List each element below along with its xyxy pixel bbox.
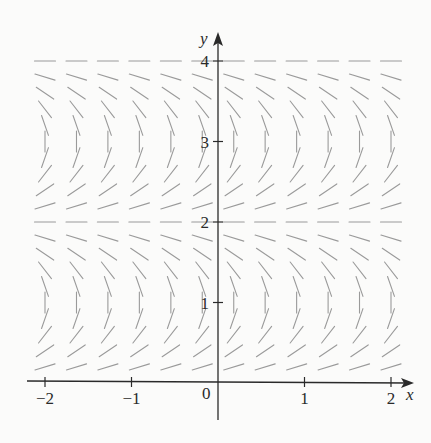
slope-mark: [353, 165, 366, 182]
slope-mark: [36, 248, 53, 260]
slope-mark: [101, 101, 114, 118]
slope-mark: [164, 262, 177, 279]
slope-mark: [382, 184, 399, 196]
slope-mark: [162, 184, 179, 196]
slope-mark: [192, 203, 212, 209]
slope-mark: [255, 74, 275, 80]
slope-mark: [349, 74, 369, 80]
slope-mark: [164, 101, 177, 118]
slope-mark: [290, 262, 303, 279]
slope-mark: [288, 248, 305, 260]
slope-mark: [288, 184, 305, 196]
slope-mark: [322, 326, 335, 343]
slope-mark: [225, 345, 242, 357]
slope-mark: [196, 101, 209, 118]
slope-mark: [68, 87, 85, 99]
slope-mark: [131, 248, 148, 260]
slope-mark: [70, 262, 83, 279]
slope-mark: [161, 235, 181, 241]
slope-mark: [68, 248, 85, 260]
slope-mark: [39, 101, 52, 118]
slope-mark: [98, 364, 118, 370]
slope-mark: [36, 184, 53, 196]
slope-mark: [382, 248, 399, 260]
slope-mark: [101, 262, 114, 279]
slope-mark: [99, 345, 116, 357]
x-axis-label: x: [405, 385, 414, 404]
slope-mark: [35, 74, 55, 80]
slope-mark: [39, 262, 52, 279]
slope-mark: [164, 326, 177, 343]
slope-mark: [353, 262, 366, 279]
slope-mark: [36, 345, 53, 357]
slope-mark: [382, 345, 399, 357]
slope-mark: [66, 74, 86, 80]
slope-mark: [131, 87, 148, 99]
slope-mark: [259, 165, 272, 182]
slope-mark: [255, 364, 275, 370]
slope-mark: [290, 165, 303, 182]
slope-mark: [162, 248, 179, 260]
slope-mark: [133, 326, 146, 343]
slope-mark: [381, 74, 401, 80]
slope-mark: [224, 203, 244, 209]
slope-field-chart: x y −2−112 1234 0: [0, 0, 431, 443]
y-tick-label: 3: [201, 133, 210, 152]
slope-mark: [381, 203, 401, 209]
slope-mark: [256, 184, 273, 196]
slope-mark: [161, 364, 181, 370]
slope-mark: [192, 364, 212, 370]
slope-mark: [196, 165, 209, 182]
slope-mark: [351, 248, 368, 260]
slope-mark: [192, 235, 212, 241]
y-tick-label: 1: [201, 294, 210, 313]
slope-mark: [225, 87, 242, 99]
origin-label: 0: [202, 384, 211, 403]
slope-mark: [129, 235, 149, 241]
slope-mark: [131, 184, 148, 196]
slope-mark: [129, 74, 149, 80]
slope-mark: [98, 74, 118, 80]
slope-mark: [290, 101, 303, 118]
slope-mark: [225, 248, 242, 260]
slope-mark: [318, 74, 338, 80]
slope-mark: [319, 345, 336, 357]
slope-mark: [385, 262, 398, 279]
slope-mark: [349, 364, 369, 370]
slope-mark: [322, 262, 335, 279]
slope-mark: [256, 87, 273, 99]
x-tick-label: −1: [122, 389, 140, 408]
x-tick-label: 2: [387, 389, 396, 408]
slope-mark: [129, 203, 149, 209]
slope-mark: [101, 326, 114, 343]
slope-mark: [98, 203, 118, 209]
slope-mark: [162, 87, 179, 99]
slope-mark: [227, 165, 240, 182]
slope-mark: [256, 248, 273, 260]
slope-mark: [255, 203, 275, 209]
slope-mark: [39, 326, 52, 343]
slope-mark: [381, 364, 401, 370]
slope-mark: [351, 87, 368, 99]
slope-mark: [196, 262, 209, 279]
slope-mark: [382, 87, 399, 99]
slope-mark: [192, 74, 212, 80]
slope-mark: [385, 165, 398, 182]
x-tick-label: −2: [36, 389, 54, 408]
slope-mark: [227, 262, 240, 279]
slope-mark: [322, 165, 335, 182]
slope-mark: [349, 203, 369, 209]
slope-mark: [66, 235, 86, 241]
slope-mark: [351, 184, 368, 196]
slope-mark: [196, 326, 209, 343]
slope-mark: [381, 235, 401, 241]
slope-mark: [319, 87, 336, 99]
slope-mark: [66, 203, 86, 209]
slope-mark: [318, 203, 338, 209]
x-axis: x: [27, 378, 414, 404]
slope-mark: [35, 203, 55, 209]
slope-mark: [133, 262, 146, 279]
slope-mark: [256, 345, 273, 357]
slope-mark: [224, 74, 244, 80]
slope-mark: [131, 345, 148, 357]
